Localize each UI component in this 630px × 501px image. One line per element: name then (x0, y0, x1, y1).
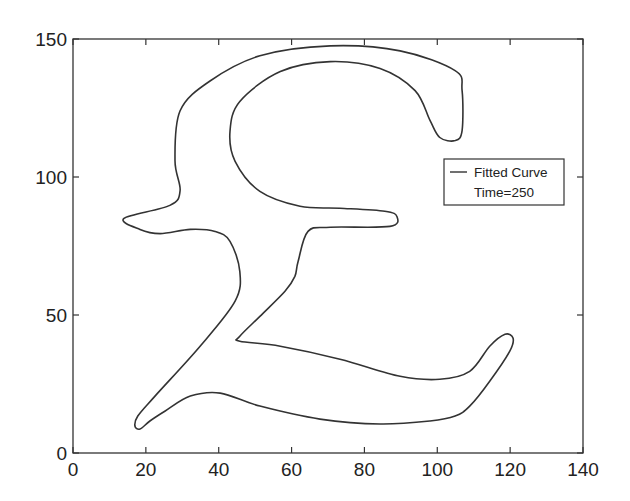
y-tick-label: 100 (35, 167, 67, 188)
y-axis: 050100150 (35, 29, 583, 464)
x-tick-label: 140 (567, 459, 599, 480)
x-tick-label: 40 (208, 459, 229, 480)
x-tick-label: 100 (421, 459, 453, 480)
x-tick-label: 20 (135, 459, 156, 480)
x-axis: 020406080100120140 (68, 39, 599, 480)
legend-label-time: Time=250 (474, 185, 534, 200)
plot-frame (73, 39, 583, 453)
y-tick-label: 50 (46, 305, 67, 326)
y-tick-label: 0 (56, 443, 67, 464)
fitted-curve-line (123, 46, 513, 430)
y-tick-label: 150 (35, 29, 67, 50)
x-tick-label: 60 (281, 459, 302, 480)
legend-label-fitted-curve: Fitted Curve (474, 165, 548, 180)
fitted-curve-chart: 020406080100120140 050100150 Fitted Curv… (0, 0, 630, 501)
legend: Fitted Curve Time=250 (444, 159, 564, 205)
plot-area-border (73, 39, 583, 453)
x-tick-label: 0 (68, 459, 79, 480)
x-tick-label: 80 (354, 459, 375, 480)
x-tick-label: 120 (494, 459, 526, 480)
